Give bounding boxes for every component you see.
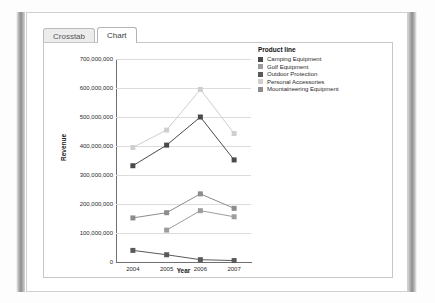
window-frame-right-edge <box>408 12 417 292</box>
y-tick-label: 0 <box>47 259 113 265</box>
legend-swatch-icon <box>258 87 263 92</box>
tab-chart[interactable]: Chart <box>97 27 137 43</box>
y-axis-ticks: 0100,000,000200,000,000300,000,000400,00… <box>44 43 113 277</box>
series-line <box>133 250 234 260</box>
chart-panel: Revenue 0100,000,000200,000,000300,000,0… <box>43 42 393 278</box>
data-point-marker <box>130 215 135 220</box>
legend-swatch-icon <box>258 64 263 69</box>
data-point-marker <box>164 228 169 233</box>
data-point-marker <box>164 128 169 133</box>
tab-chart-label: Chart <box>107 31 127 40</box>
data-point-marker <box>130 163 135 168</box>
data-point-marker <box>164 210 169 215</box>
y-tick-label: 500,000,000 <box>47 114 113 120</box>
window-frame-left-edge <box>16 12 25 292</box>
legend-item-label: Outdoor Protection <box>267 71 317 77</box>
tab-bar: Crosstab Chart <box>43 26 139 43</box>
legend-item-label: Personal Accessories <box>267 79 324 85</box>
data-point-marker <box>130 248 135 253</box>
legend-item[interactable]: Mountaineering Equipment <box>258 86 390 92</box>
legend-swatch-icon <box>258 72 263 77</box>
series-line <box>133 117 234 166</box>
data-point-marker <box>164 143 169 148</box>
y-tick-label: 300,000,000 <box>47 172 113 178</box>
data-point-marker <box>198 208 203 213</box>
y-tick-label: 700,000,000 <box>47 56 113 62</box>
report-window: Crosstab Chart Revenue 0100,000,000200,0… <box>26 12 408 292</box>
legend-swatch-icon <box>258 79 263 84</box>
data-point-marker <box>232 131 237 136</box>
legend-title: Product line <box>258 46 390 53</box>
legend-swatch-icon <box>258 57 263 62</box>
y-tick-label: 200,000,000 <box>47 201 113 207</box>
tab-crosstab[interactable]: Crosstab <box>43 28 95 43</box>
legend-item[interactable]: Camping Equipment <box>258 56 390 62</box>
y-tick-label: 100,000,000 <box>47 230 113 236</box>
legend-item-label: Camping Equipment <box>267 56 321 62</box>
window-content: Crosstab Chart Revenue 0100,000,000200,0… <box>33 19 403 287</box>
series-layer <box>116 59 251 262</box>
legend-item[interactable]: Personal Accessories <box>258 79 390 85</box>
legend-item[interactable]: Outdoor Protection <box>258 71 390 77</box>
series-line <box>133 89 234 147</box>
revenue-line-chart: Revenue 0100,000,000200,000,000300,000,0… <box>44 43 392 277</box>
legend-item[interactable]: Golf Equipment <box>258 64 390 70</box>
data-point-marker <box>232 258 237 263</box>
data-point-marker <box>198 257 203 262</box>
legend-item-label: Mountaineering Equipment <box>267 86 339 92</box>
data-point-marker <box>232 214 237 219</box>
legend-items: Camping EquipmentGolf EquipmentOutdoor P… <box>258 56 390 92</box>
legend-item-label: Golf Equipment <box>267 64 308 70</box>
screen: Crosstab Chart Revenue 0100,000,000200,0… <box>0 0 435 303</box>
data-point-marker <box>232 206 237 211</box>
y-tick-label: 600,000,000 <box>47 85 113 91</box>
series-line <box>167 211 235 230</box>
data-point-marker <box>198 87 203 92</box>
data-point-marker <box>198 191 203 196</box>
y-tick-label: 400,000,000 <box>47 143 113 149</box>
data-point-marker <box>130 145 135 150</box>
chart-legend: Product line Camping EquipmentGolf Equip… <box>258 46 390 94</box>
x-axis-title: Year <box>116 267 251 274</box>
data-point-marker <box>198 115 203 120</box>
plot-area: 2004200520062007 <box>116 59 251 262</box>
tab-crosstab-label: Crosstab <box>53 32 85 41</box>
x-axis-line <box>116 262 252 263</box>
data-point-marker <box>232 157 237 162</box>
data-point-marker <box>164 252 169 257</box>
